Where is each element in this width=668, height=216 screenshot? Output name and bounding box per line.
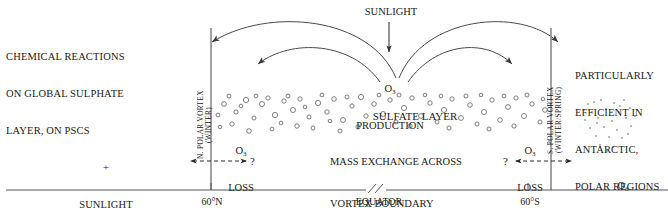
left-line-3: LAYER, ON PSCS xyxy=(6,125,206,137)
o3-loss-north-formula: O3 xyxy=(216,145,266,158)
right-line-1: PARTICULARLY xyxy=(575,70,667,82)
sulfate-layer-label: SULFATE LAYER xyxy=(355,110,475,123)
sunlight-label: SUNLIGHT xyxy=(336,6,446,18)
axis-label-equator: EQUATOR xyxy=(334,196,424,207)
question-mark-south: ? xyxy=(503,155,508,167)
o3-loss-south-word: LOSS xyxy=(505,182,555,194)
o3-loss-hole-label: O3 LOSS (HOLE) xyxy=(578,155,668,216)
axis-label-60s: 60°S xyxy=(500,196,560,207)
north-polar-vortex-label: N. POLAR VORTEX (WINTER) xyxy=(197,75,213,175)
axis-label-60n: 60°N xyxy=(182,196,242,207)
left-sunlight-label: SUNLIGHT xyxy=(6,199,206,211)
diagram-canvas: CHEMICAL REACTIONS ON GLOBAL SULPHATE LA… xyxy=(0,0,668,216)
left-explanation-block: CHEMICAL REACTIONS ON GLOBAL SULPHATE LA… xyxy=(6,26,206,216)
right-line-2: EFFICIENT IN xyxy=(575,107,667,119)
left-plus-sign: + xyxy=(6,162,206,174)
o3-production-formula: O3 xyxy=(330,83,450,96)
o3-loss-north-word: LOSS xyxy=(216,182,266,194)
left-line-2: ON GLOBAL SULPHATE xyxy=(6,88,206,100)
south-polar-vortex-label: S. POLAR VORTEX (WINTER/SPRING) xyxy=(547,60,563,180)
question-mark-north: ? xyxy=(250,155,255,167)
paragraph-line-1: MASS EXCHANGE ACROSS xyxy=(330,155,530,169)
left-line-1: CHEMICAL REACTIONS xyxy=(6,51,206,63)
o3-hole-formula: O3 xyxy=(578,180,668,193)
